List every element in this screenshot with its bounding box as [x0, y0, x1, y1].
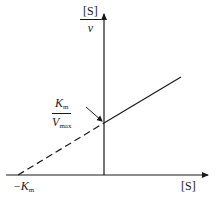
extrapolation-line-dashed: [18, 123, 104, 175]
y-intercept-numerator: Km: [52, 97, 71, 114]
x-intercept-label: −Km: [14, 180, 34, 194]
y-axis-label-denominator: v: [88, 20, 93, 34]
y-intercept-denominator: Vmax: [52, 114, 71, 130]
hanes-woolf-plot: [0, 0, 216, 205]
y-intercept-label: Km Vmax: [52, 97, 71, 130]
y-axis-label-numerator: [S]: [80, 5, 101, 20]
x-axis-label: [S]: [181, 180, 196, 192]
y-axis-label: [S] v: [80, 5, 101, 34]
y-intercept-arrow: [86, 107, 102, 121]
data-line-solid: [104, 77, 181, 123]
